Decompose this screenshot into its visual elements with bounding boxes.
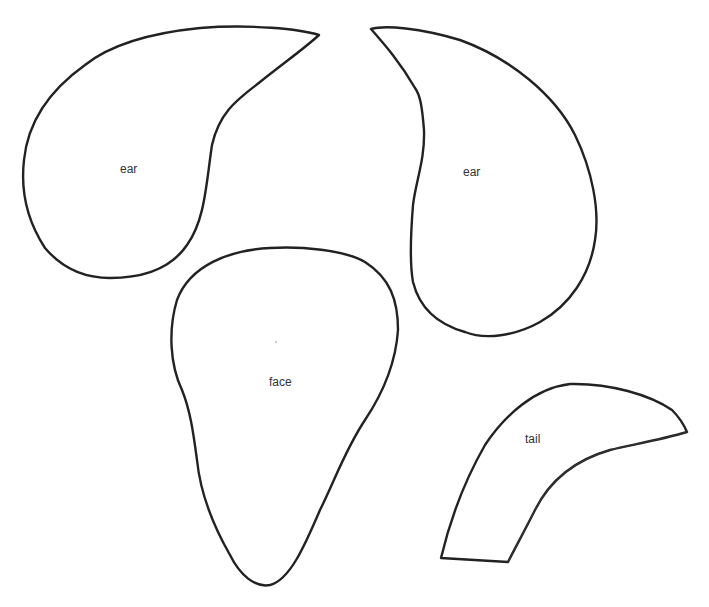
ear-right-label: ear bbox=[463, 165, 480, 179]
ear-left-outline bbox=[23, 27, 319, 278]
face-label: face bbox=[269, 375, 292, 389]
face-outline bbox=[171, 248, 398, 586]
tail-label: tail bbox=[525, 432, 540, 446]
ear-right-outline bbox=[371, 27, 596, 336]
face-center-mark bbox=[275, 341, 277, 343]
pattern-pieces-canvas bbox=[0, 0, 709, 607]
ear-left-label: ear bbox=[120, 162, 137, 176]
